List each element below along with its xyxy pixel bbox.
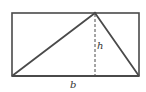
base-label: b <box>70 79 76 90</box>
triangle-in-rectangle-diagram: h b <box>0 0 146 92</box>
apex-point <box>94 12 97 15</box>
height-label: h <box>97 40 103 51</box>
triangle-sides <box>12 13 139 76</box>
rectangle <box>12 13 139 76</box>
